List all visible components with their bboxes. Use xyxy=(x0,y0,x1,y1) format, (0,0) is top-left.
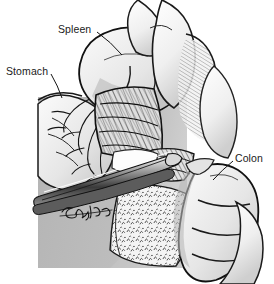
medical-illustration-figure: Spleen Stomach Colon xyxy=(0,0,274,284)
label-stomach: Stomach xyxy=(6,65,48,77)
illustration-canvas xyxy=(0,0,274,284)
label-colon: Colon xyxy=(235,152,263,164)
label-spleen: Spleen xyxy=(58,23,91,35)
lateral-gastric-wall xyxy=(200,66,237,158)
